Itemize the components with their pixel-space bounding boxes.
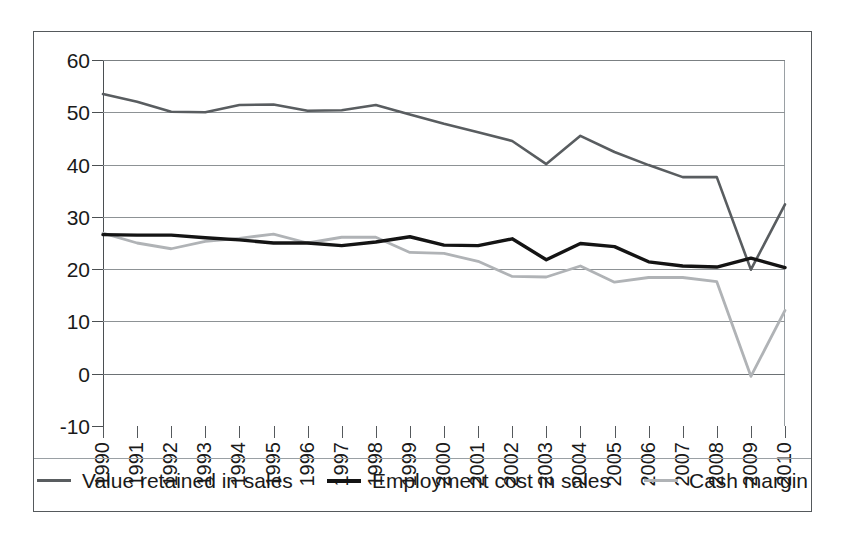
chart-figure: -100102030405060 19901991199219931994199…	[33, 31, 812, 512]
y-axis-label-20: 20	[67, 259, 90, 280]
legend-entry-value-retained: Value retained in sales	[37, 470, 293, 491]
x-tick-2009	[751, 426, 752, 438]
x-tick-1990	[103, 426, 104, 438]
y-axis-label-10: 10	[67, 311, 90, 332]
y-axis-label-40: 40	[67, 154, 90, 175]
y-tick-20	[92, 269, 103, 270]
legend-divider	[34, 458, 811, 459]
x-tick-2010	[785, 426, 786, 438]
x-tick-2008	[717, 426, 718, 438]
x-tick-2006	[649, 426, 650, 438]
x-tick-1994	[239, 426, 240, 438]
y-axis-label--10: -10	[60, 416, 90, 437]
plot-area: -100102030405060 19901991199219931994199…	[103, 60, 785, 426]
x-tick-2005	[615, 426, 616, 438]
x-tick-1998	[376, 426, 377, 438]
x-tick-1995	[274, 426, 275, 438]
legend-line-value-retained	[37, 479, 71, 482]
x-tick-2004	[580, 426, 581, 438]
x-tick-1999	[410, 426, 411, 438]
series-line-value-retained-in-sales	[103, 94, 785, 270]
y-axis-label-0: 0	[78, 363, 90, 384]
legend-label-employment-cost: Employment cost in sales	[372, 470, 610, 491]
x-tick-1992	[171, 426, 172, 438]
x-tick-1997	[342, 426, 343, 438]
legend-line-employment-cost	[327, 479, 361, 483]
y-tick-40	[92, 165, 103, 166]
y-axis-label-30: 30	[67, 206, 90, 227]
x-tick-1993	[205, 426, 206, 438]
x-tick-2000	[444, 426, 445, 438]
legend-entry-employment-cost: Employment cost in sales	[327, 470, 610, 491]
series-line-employment-cost-in-sales	[103, 235, 785, 268]
legend-entry-cash-margin: Cash margin	[644, 470, 808, 491]
y-tick-50	[92, 112, 103, 113]
y-axis-label-60: 60	[67, 50, 90, 71]
chart-legend: Value retained in sales Employment cost …	[34, 470, 811, 491]
series-lines	[103, 60, 785, 426]
y-tick-30	[92, 217, 103, 218]
y-tick-10	[92, 321, 103, 322]
x-tick-2001	[478, 426, 479, 438]
series-line-cash-margin	[103, 233, 785, 376]
legend-label-value-retained: Value retained in sales	[82, 470, 293, 491]
y-tick-60	[92, 60, 103, 61]
y-tick-0	[92, 374, 103, 375]
x-tick-1991	[137, 426, 138, 438]
y-tick--10	[92, 426, 103, 427]
legend-line-cash-margin	[644, 479, 678, 482]
x-tick-2007	[683, 426, 684, 438]
legend-label-cash-margin: Cash margin	[689, 470, 808, 491]
x-tick-2002	[512, 426, 513, 438]
x-tick-1996	[308, 426, 309, 438]
y-axis-label-50: 50	[67, 102, 90, 123]
x-tick-2003	[546, 426, 547, 438]
